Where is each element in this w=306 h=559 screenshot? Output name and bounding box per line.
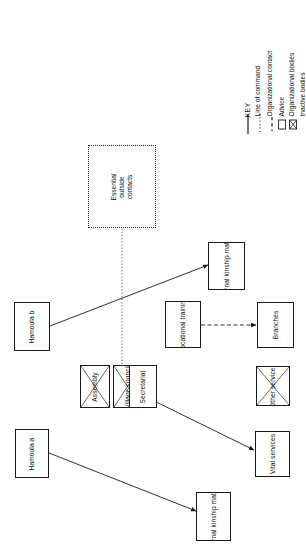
diagram-canvas: Essential outside contacts Hamoula b Ham… bbox=[0, 0, 305, 559]
node-label: Vocational training bbox=[179, 301, 187, 348]
node-label: Branches bbox=[272, 311, 280, 340]
dotted-line-icon bbox=[255, 113, 265, 135]
node-vital-services[interactable]: Vital services bbox=[255, 431, 290, 477]
key-entry-label: Inactive bodies bbox=[299, 7, 306, 117]
node-label: Secretariat bbox=[139, 370, 147, 403]
node-label: Internal kinship matters bbox=[210, 492, 218, 541]
solid-line-icon bbox=[243, 113, 253, 135]
node-label: Vital services bbox=[269, 434, 277, 474]
empty-box-icon bbox=[277, 113, 287, 135]
node-vocational-training[interactable]: Vocational training bbox=[165, 301, 201, 348]
key-entry-line-of-command: Line of command bbox=[242, 8, 254, 136]
node-internal-kinship-matters-bottom[interactable]: Internal kinship matters bbox=[196, 492, 231, 541]
node-hamoula-b[interactable]: Hamoula b bbox=[14, 302, 50, 351]
crosshatched-box-icon bbox=[288, 113, 298, 135]
link-hamoula-a-to-kinship-bottom bbox=[49, 453, 196, 511]
node-essential-outside-contacts[interactable]: Essential outside contacts bbox=[88, 145, 156, 228]
node-internal-kinship-matters-top[interactable]: Internal kinship matters bbox=[208, 242, 245, 290]
link-secretariat-to-vital-services bbox=[142, 395, 254, 450]
node-label: Hamoula b bbox=[28, 310, 36, 343]
key-entry-inactive-bodies: Inactive bodies bbox=[287, 8, 299, 136]
node-other-services[interactable]: Other services bbox=[256, 366, 290, 406]
node-label: Hamoula a bbox=[28, 437, 36, 470]
node-hamoula-a[interactable]: Hamoula a bbox=[15, 429, 49, 478]
node-label: Assembly bbox=[91, 372, 99, 401]
node-branches[interactable]: Branches bbox=[257, 302, 294, 348]
node-secretariat[interactable]: Secretariat bbox=[129, 365, 157, 408]
key-entry-organizational-contact: Organizational contact bbox=[254, 8, 266, 136]
node-assembly[interactable]: Assembly bbox=[80, 365, 110, 408]
node-label: Other services bbox=[269, 366, 277, 406]
node-label: Essential outside contacts bbox=[110, 173, 133, 200]
node-label: Internal kinship matters bbox=[223, 242, 231, 290]
key-legend: KEY Line of command Organizational conta… bbox=[233, 8, 299, 138]
